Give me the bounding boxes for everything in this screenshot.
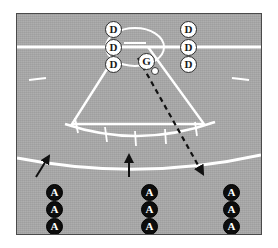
attack-token-label: A [146, 204, 154, 215]
defense-token-label: D [110, 24, 118, 35]
defense-token-left-2[interactable]: D [105, 39, 122, 56]
left-run-arrow [36, 156, 49, 177]
attack-token-label: A [146, 221, 154, 232]
defense-token-label: D [185, 59, 193, 70]
attack-token-label: A [51, 187, 59, 198]
defense-token-right-3[interactable]: D [180, 56, 197, 73]
attack-token-center-3[interactable]: A [141, 218, 158, 235]
left-sideline-hash [29, 78, 46, 80]
defense-token-label: D [185, 42, 193, 53]
defense-token-left-1[interactable]: D [105, 21, 122, 38]
defense-token-label: D [110, 42, 118, 53]
attack-token-label: A [146, 187, 154, 198]
attack-token-label: A [228, 187, 236, 198]
attack-token-right-1[interactable]: A [223, 184, 240, 201]
defense-token-label: D [185, 24, 193, 35]
attack-token-right-3[interactable]: A [223, 218, 240, 235]
right-sideline-hash [232, 78, 249, 80]
lower-arc [17, 155, 261, 169]
defense-token-right-1[interactable]: D [180, 21, 197, 38]
ball-icon [151, 67, 159, 75]
attack-token-label: A [228, 204, 236, 215]
attack-token-left-2[interactable]: A [46, 201, 63, 218]
lacrosse-drill-diagram: D D D D D D G A A A [0, 0, 278, 248]
attack-token-center-1[interactable]: A [141, 184, 158, 201]
attack-token-left-1[interactable]: A [46, 184, 63, 201]
goalie-token-label: G [142, 56, 151, 67]
defense-token-right-2[interactable]: D [180, 39, 197, 56]
attack-token-label: A [51, 204, 59, 215]
defense-token-left-3[interactable]: D [105, 56, 122, 73]
attack-token-label: A [51, 221, 59, 232]
attack-token-left-3[interactable]: A [46, 218, 63, 235]
defense-token-label: D [110, 59, 118, 70]
field-plate: D D D D D D G A A A [16, 13, 262, 235]
attack-token-right-2[interactable]: A [223, 201, 240, 218]
attack-token-label: A [228, 221, 236, 232]
attack-token-center-2[interactable]: A [141, 201, 158, 218]
pass-line [138, 58, 203, 174]
